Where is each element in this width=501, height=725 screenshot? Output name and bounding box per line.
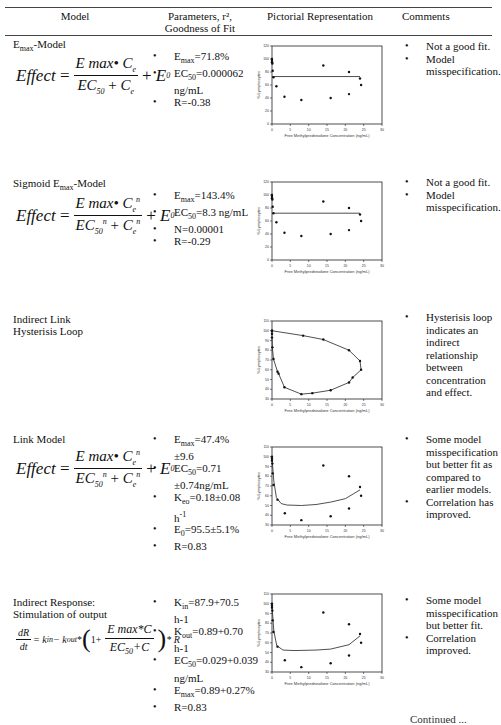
y-tick-label: 0 <box>267 122 269 126</box>
plot-frame <box>272 46 382 124</box>
ec-term: EC <box>77 77 96 93</box>
comment-item: Some model misspecification but better f… <box>402 594 494 632</box>
param-item: R=0.83 <box>150 701 250 713</box>
emax-term: E max• <box>76 55 119 71</box>
param-item: Kin=87.9+70.5 h-1 <box>150 596 250 625</box>
y-tick-label: 70 <box>265 484 269 488</box>
x-tick-label: 25 <box>362 128 366 132</box>
formula-fraction: E max• Cen EC50n + Cen <box>74 448 143 489</box>
param-item: R=-0.38 <box>150 96 250 108</box>
chart-emax: 051015202530020406080100120Free Methylpr… <box>256 42 391 142</box>
comments-indirect: Some model misspecification but better f… <box>402 594 494 657</box>
numerator: E max• Cen <box>74 195 142 216</box>
y-tick-label: 120 <box>263 44 269 48</box>
comment-item: Correlation improved. <box>402 632 494 657</box>
data-point <box>272 631 274 633</box>
data-point <box>360 220 362 222</box>
x-tick-label: 15 <box>325 676 329 680</box>
plot-frame <box>272 447 382 525</box>
x-tick-label: 20 <box>343 403 347 407</box>
y-tick-label: 80 <box>265 206 269 210</box>
one-plus: 1+ <box>91 634 102 645</box>
title-sub: max <box>60 183 74 192</box>
data-point <box>348 475 350 477</box>
x-tick-label: 0 <box>271 529 273 533</box>
x-tick-label: 10 <box>307 529 311 533</box>
x-tick-label: 0 <box>271 403 273 407</box>
y-tick-label: 30 <box>265 523 269 527</box>
y-tick-label: 100 <box>263 602 269 606</box>
comments-link: Some model misspecification but better f… <box>402 433 494 521</box>
comment-item: Model misspecification. <box>402 53 494 78</box>
data-point <box>271 198 273 200</box>
y-tick-label: 40 <box>265 232 269 236</box>
y-tick-label: 30 <box>265 397 269 401</box>
data-point <box>311 392 313 394</box>
fit-line <box>272 459 360 506</box>
comment-item: Not a good fit. <box>402 176 494 189</box>
data-point <box>271 62 273 64</box>
y-tick-label: 90 <box>265 612 269 616</box>
data-point <box>272 70 274 72</box>
x-tick-label: 5 <box>289 676 291 680</box>
comments-emax: Not a good fit.Model misspecification. <box>402 40 494 78</box>
x-tick-label: 30 <box>380 403 384 407</box>
e-sub: e <box>133 205 137 214</box>
comment-item: Model misspecification. <box>402 189 494 214</box>
x-tick-label: 25 <box>362 529 366 533</box>
param-item: Keo=0.18±0.08 h-1 <box>150 491 250 523</box>
c-term: C <box>123 195 133 211</box>
data-point <box>271 330 273 332</box>
chart-link: 05101520253030405060708090100110Free Met… <box>256 443 391 543</box>
data-point <box>283 232 285 234</box>
data-point <box>322 611 324 613</box>
comments-sigmoid: Not a good fit.Model misspecification. <box>402 176 494 214</box>
e-sub: e <box>131 87 135 96</box>
dr: dR <box>16 627 31 640</box>
title-text: Sigmoid E <box>13 177 60 189</box>
emax-term: E max• <box>76 195 119 211</box>
data-point <box>284 512 286 514</box>
data-point <box>272 76 274 78</box>
data-point <box>272 619 274 621</box>
x-axis-label: Free Methylprednisolone Concentration (n… <box>285 269 371 274</box>
data-point <box>272 206 274 208</box>
title-line1: Indirect Response: <box>13 596 107 608</box>
n-sup: n <box>136 195 140 204</box>
y-tick-label: 50 <box>265 651 269 655</box>
y-tick-label: 60 <box>265 219 269 223</box>
y-tick-label: 40 <box>265 660 269 664</box>
data-point <box>275 221 277 223</box>
data-point <box>276 498 278 500</box>
data-point <box>360 642 362 644</box>
y-tick-label: 80 <box>265 474 269 478</box>
x-tick-label: 5 <box>289 128 291 132</box>
x-tick-label: 15 <box>325 264 329 268</box>
c-term: C <box>121 77 131 93</box>
data-point <box>348 654 350 656</box>
dt: dt <box>18 640 30 652</box>
numerator: E max• Cen <box>74 448 142 469</box>
chart-indirect: 05101520253030405060708090100110Free Met… <box>256 590 391 690</box>
comments-hysteresis: Hysterisis loop indicates an indirect re… <box>402 311 494 399</box>
y-tick-label: 0 <box>267 258 269 262</box>
y-tick-label: 100 <box>263 193 269 197</box>
fit-line <box>272 606 360 651</box>
drdt-fraction: dR dt <box>16 627 31 652</box>
data-point <box>359 486 361 488</box>
param-item: EC50=0.029+0.039 ng/mL <box>150 654 250 683</box>
header-model: Model <box>35 10 115 22</box>
data-point <box>360 84 362 86</box>
x-tick-label: 10 <box>307 128 311 132</box>
formula-effect: Effect <box>16 206 56 226</box>
data-point <box>348 71 350 73</box>
title-text: E <box>13 38 20 50</box>
x-tick-label: 0 <box>271 264 273 268</box>
n-sup: n <box>103 470 107 479</box>
data-point <box>271 462 273 464</box>
denominator: EC50n + Cen <box>74 469 143 489</box>
data-point <box>271 609 273 611</box>
y-tick-label: 80 <box>265 70 269 74</box>
s50-sub: 50 <box>97 87 105 96</box>
data-point <box>348 349 350 351</box>
